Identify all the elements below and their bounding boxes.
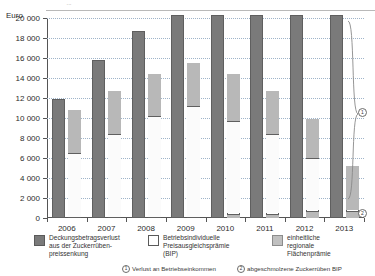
bar-premiums-2007 (108, 92, 121, 218)
seg-regional-flat-2009 (187, 63, 200, 106)
bar-loss-2012 (290, 15, 303, 218)
seg-regional-flat-2012 (306, 119, 319, 158)
legend-item-flat: einheitliche regionale Flächenprämie (272, 234, 372, 258)
footnote-text-1: Verlust an Betriebseinkommen (132, 265, 216, 272)
bar-premiums-2008 (148, 75, 161, 218)
plot-area: 02 0004 0006 0008 00010 00012 00014 0001… (47, 18, 364, 218)
top-divider-rule (46, 10, 375, 11)
legend-label-flat: einheitliche regionale Flächenprämie (287, 234, 331, 258)
legend-label-bip: Betriebsindividuelle Preisausgleichspräm… (163, 234, 229, 258)
gridline (47, 58, 364, 59)
legend-label-loss: Deckungsbetragsverlust aus der Zuckerrüb… (49, 234, 120, 258)
x-tick-mark (87, 218, 88, 222)
legend-item-loss: Deckungsbetragsverlust aus der Zuckerrüb… (34, 234, 146, 258)
y-tick-mark (43, 118, 47, 119)
annotation-braces (346, 18, 375, 218)
chart-container: ... Euro 02 0004 0006 0008 00010 00012 0… (0, 0, 375, 276)
gridline (47, 38, 364, 39)
bar-premiums-2010 (227, 75, 240, 218)
footnote-mark-1-icon: 1 (122, 265, 130, 273)
legend-swatch-loss-icon (34, 235, 45, 246)
y-tick-mark (43, 98, 47, 99)
y-tick-label: 14 000 (16, 74, 40, 83)
top-clipped-text: ... (58, 0, 80, 6)
y-tick-label: 12 000 (16, 94, 40, 103)
legend-swatch-bip-icon (148, 235, 159, 246)
legend-item-bip: Betriebsindividuelle Preisausgleichspräm… (148, 234, 258, 258)
y-tick-mark (43, 58, 47, 59)
y-tick-mark (43, 78, 47, 79)
x-tick-mark (47, 218, 48, 222)
y-tick-label: 0 (36, 214, 40, 223)
seg-bip-2007 (108, 134, 121, 217)
seg-base-bip-2012 (306, 211, 319, 218)
x-tick-mark (166, 218, 167, 222)
seg-bip-2011 (266, 134, 279, 213)
seg-base-bip-2011 (266, 214, 279, 218)
y-tick-mark (43, 18, 47, 19)
bar-loss-2009 (171, 15, 184, 218)
x-tick-mark (126, 218, 127, 222)
chart-footnotes: 1Verlust an Betriebseinkommen 2abgeschmo… (0, 264, 375, 276)
seg-bip-2006 (68, 153, 81, 217)
seg-bip-2008 (148, 116, 161, 217)
bar-loss-2011 (250, 15, 263, 218)
x-tick-mark (245, 218, 246, 222)
annotation-mark-2: 2 (358, 209, 367, 218)
y-tick-label: 18 000 (16, 34, 40, 43)
seg-bip-2010 (227, 121, 240, 213)
legend-swatch-flat-icon (272, 235, 283, 246)
annotation-mark-1: 1 (358, 108, 367, 117)
y-tick-label: 10 000 (16, 114, 40, 123)
footnote-mark-2-icon: 2 (237, 265, 245, 273)
chart-legend: Deckungsbetragsverlust aus der Zuckerrüb… (0, 232, 375, 264)
bar-premiums-2011 (266, 92, 279, 218)
y-tick-label: 16 000 (16, 54, 40, 63)
y-tick-label: 20 000 (16, 14, 40, 23)
bar-loss-2008 (132, 31, 145, 218)
y-tick-label: 8 000 (20, 134, 40, 143)
bar-loss-2010 (211, 15, 224, 218)
bar-premiums-2009 (187, 64, 200, 218)
x-tick-mark (206, 218, 207, 222)
y-tick-label: 6 000 (20, 154, 40, 163)
x-tick-mark (285, 218, 286, 222)
gridline (47, 18, 364, 19)
seg-regional-flat-2006 (68, 110, 81, 153)
y-tick-mark (43, 158, 47, 159)
footnote-text-2: abgeschmolzene Zuckerrüben BIP (247, 265, 342, 272)
x-tick-mark (324, 218, 325, 222)
y-tick-mark (43, 178, 47, 179)
seg-regional-flat-2011 (266, 91, 279, 134)
bar-loss-2013 (330, 15, 343, 218)
seg-regional-flat-2007 (108, 91, 121, 134)
footnote-2: 2abgeschmolzene Zuckerrüben BIP (237, 265, 342, 273)
seg-regional-flat-2010 (227, 74, 240, 121)
bar-loss-2007 (92, 60, 105, 218)
bar-premiums-2006 (68, 111, 81, 218)
y-tick-mark (43, 198, 47, 199)
y-tick-mark (43, 38, 47, 39)
bar-premiums-2012 (306, 120, 319, 218)
y-tick-mark (43, 138, 47, 139)
footnote-1: 1Verlust an Betriebseinkommen (122, 265, 216, 273)
y-tick-label: 4 000 (20, 174, 40, 183)
seg-regional-flat-2008 (148, 74, 161, 116)
seg-bip-2012 (306, 158, 319, 210)
y-tick-label: 2 000 (20, 194, 40, 203)
seg-base-bip-2010 (227, 214, 240, 218)
bar-loss-2006 (52, 99, 65, 218)
seg-bip-2009 (187, 106, 200, 217)
x-tick-mark (364, 218, 365, 222)
